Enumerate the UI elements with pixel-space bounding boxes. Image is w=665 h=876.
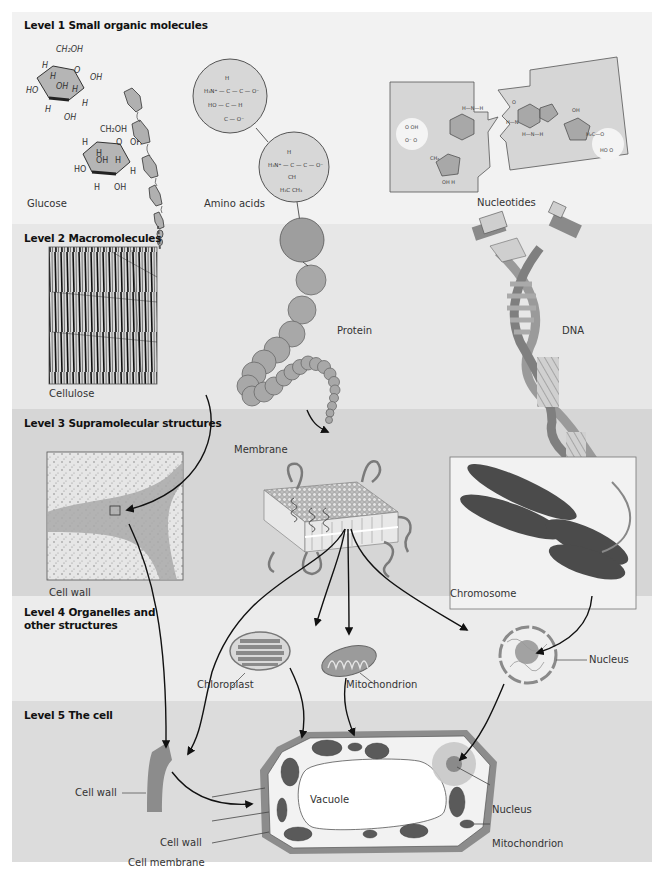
svg-text:CH₂: CH₂ bbox=[430, 155, 439, 161]
nucleotides-label: Nucleotides bbox=[477, 197, 536, 209]
protein-label: Protein bbox=[337, 325, 372, 337]
svg-text:H: H bbox=[72, 85, 78, 94]
cell-wall-fragment-icon bbox=[147, 742, 172, 812]
vacuole-label: Vacuole bbox=[310, 794, 349, 806]
mitochondrion-label: Mitochondrion bbox=[346, 679, 417, 691]
chloroplast-icon bbox=[230, 632, 290, 670]
svg-text:C — O⁻: C — O⁻ bbox=[224, 116, 244, 122]
svg-text:H: H bbox=[82, 138, 88, 147]
svg-text:O: O bbox=[512, 99, 516, 105]
svg-text:H: H bbox=[50, 72, 56, 81]
plant-cell-icon bbox=[260, 730, 497, 854]
svg-text:OH: OH bbox=[96, 156, 108, 165]
level-5-title: Level 5 The cell bbox=[24, 709, 113, 722]
svg-text:H—N: H—N bbox=[506, 119, 519, 125]
nucleus-cell-label: Nucleus bbox=[492, 804, 532, 816]
cellulose-label: Cellulose bbox=[49, 388, 94, 400]
svg-text:H₂C—O: H₂C—O bbox=[586, 131, 604, 137]
mitochondrion-icon bbox=[318, 640, 379, 682]
nucleus-label-organelle: Nucleus bbox=[589, 654, 629, 666]
svg-text:H: H bbox=[94, 183, 100, 192]
membrane-label: Membrane bbox=[234, 444, 288, 456]
svg-text:H₃N⁺ — C — C — O⁻: H₃N⁺ — C — C — O⁻ bbox=[204, 88, 259, 94]
level-1-title: Level 1 Small organic molecules bbox=[24, 19, 208, 32]
svg-text:CH₂OH: CH₂OH bbox=[56, 45, 83, 54]
svg-text:H: H bbox=[130, 167, 136, 176]
svg-text:CH: CH bbox=[288, 174, 296, 180]
mitochondrion-cell-label: Mitochondrion bbox=[492, 838, 563, 850]
svg-text:H₃C CH₃: H₃C CH₃ bbox=[280, 187, 302, 193]
svg-text:CH₂OH: CH₂OH bbox=[100, 125, 127, 134]
svg-text:HO: HO bbox=[26, 86, 38, 95]
protein-chain-icon bbox=[237, 265, 340, 424]
svg-text:HO O: HO O bbox=[600, 147, 613, 153]
svg-text:O: O bbox=[116, 138, 122, 147]
cell-wall-fragment-label: Cell wall bbox=[75, 787, 117, 799]
diagram-artwork: CH₂OHHH OOHOH HHOH HOH CH₂OHHH OOHOH HHO… bbox=[12, 12, 652, 862]
dna-helix-icon bbox=[490, 238, 610, 480]
level-4-title-line2: other structures bbox=[24, 619, 118, 632]
svg-text:H—N—H: H—N—H bbox=[522, 131, 544, 137]
svg-text:O OH: O OH bbox=[405, 124, 418, 130]
svg-text:HO — C — H: HO — C — H bbox=[208, 102, 242, 108]
level-2-title: Level 2 Macromolecules bbox=[24, 232, 161, 245]
svg-text:OH: OH bbox=[90, 73, 102, 82]
svg-text:H: H bbox=[45, 105, 51, 114]
svg-text:OH: OH bbox=[572, 107, 580, 113]
level-3-title: Level 3 Supramolecular structures bbox=[24, 417, 222, 430]
svg-text:H: H bbox=[42, 61, 48, 70]
amino-acids-label: Amino acids bbox=[204, 198, 265, 210]
svg-text:OH: OH bbox=[114, 183, 126, 192]
svg-text:OH: OH bbox=[56, 82, 68, 91]
nucleus-icon bbox=[500, 627, 556, 683]
svg-text:H—N—H: H—N—H bbox=[462, 105, 484, 111]
glucose-label: Glucose bbox=[27, 198, 67, 210]
svg-text:O: O bbox=[74, 66, 80, 75]
svg-text:H: H bbox=[287, 149, 291, 155]
svg-text:H: H bbox=[225, 75, 229, 81]
svg-text:OH H: OH H bbox=[442, 179, 455, 185]
chromosome-label: Chromosome bbox=[450, 588, 516, 600]
svg-text:H: H bbox=[82, 99, 88, 108]
cell-membrane-label: Cell membrane bbox=[128, 857, 205, 869]
cell-wall-label: Cell wall bbox=[160, 837, 202, 849]
hierarchy-diagram: CH₂OHHH OOHOH HHOH HOH CH₂OHHH OOHOH HHO… bbox=[12, 12, 652, 862]
cell-wall-micrograph-label: Cell wall bbox=[49, 587, 91, 599]
svg-text:HO: HO bbox=[74, 165, 86, 174]
svg-text:O⁻ O: O⁻ O bbox=[405, 137, 417, 143]
chloroplast-label: Chloroplast bbox=[197, 679, 254, 691]
level-4-title-line1: Level 4 Organelles and bbox=[24, 606, 155, 619]
svg-text:OH: OH bbox=[64, 113, 76, 122]
svg-text:H₃N⁺ — C — C — O⁻: H₃N⁺ — C — C — O⁻ bbox=[268, 162, 323, 168]
dna-label: DNA bbox=[562, 325, 584, 337]
svg-text:H: H bbox=[115, 156, 121, 165]
